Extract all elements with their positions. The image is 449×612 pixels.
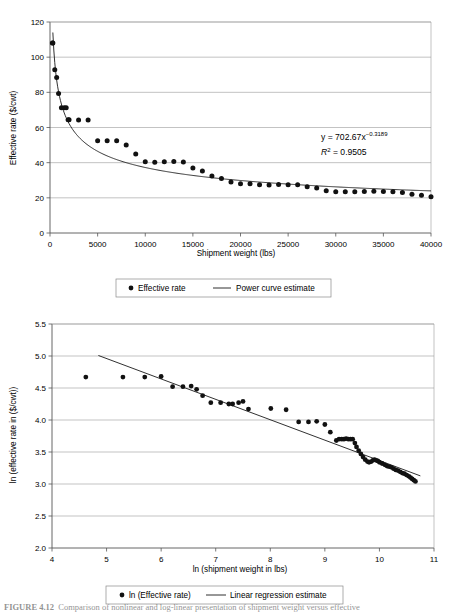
data-point: [86, 118, 91, 123]
data-point: [257, 182, 262, 187]
data-point: [390, 189, 395, 194]
bottom-x-tick: 5: [104, 555, 109, 564]
top-x-tick: 20000: [229, 240, 252, 249]
chart-log-log-effective-rate: 4567891011 2.02.53.03.54.04.55.05.5 ln (…: [0, 300, 449, 600]
bottom-x-tick: 4: [50, 555, 55, 564]
data-point: [230, 402, 235, 407]
top-y-tick: 120: [31, 18, 45, 27]
data-point: [381, 189, 386, 194]
top-x-tick: 15000: [182, 240, 205, 249]
top-scatter-points: [50, 41, 434, 200]
data-point: [268, 406, 273, 411]
top-r-squared: R2 = 0.9505: [321, 147, 367, 158]
top-annotation: y = 702.67x−0.3189 R2 = 0.9505: [321, 131, 388, 157]
data-point: [267, 183, 272, 188]
data-point: [200, 169, 205, 174]
data-point: [352, 189, 357, 194]
data-point: [105, 138, 110, 143]
data-point: [314, 185, 319, 190]
top-y-tick-labels: 020406080100120: [31, 18, 45, 238]
data-point: [200, 393, 205, 398]
data-point: [162, 159, 167, 164]
data-point: [142, 375, 147, 380]
caption-line: FIGURE 4.12 Comparison of nonlinear and …: [4, 602, 360, 612]
top-x-tick-labels: 0500010000150002000025000300003500040000: [48, 240, 443, 249]
data-point: [52, 67, 57, 72]
top-x-axis-title: Shipment weight (lbs): [197, 249, 276, 258]
figure-page: 0500010000150002000025000300003500040000…: [0, 0, 449, 612]
data-point: [171, 159, 176, 164]
data-point: [324, 188, 329, 193]
data-point: [248, 181, 253, 186]
top-legend-label-points: Effective rate: [138, 284, 186, 293]
data-point: [170, 384, 175, 389]
data-point: [305, 184, 310, 189]
top-legend-label-curve: Power curve estimate: [236, 284, 315, 293]
bottom-y-tick: 2.5: [35, 512, 47, 521]
data-point: [121, 375, 126, 380]
caption-body: Comparison of nonlinear and log-linear p…: [58, 602, 360, 612]
top-y-tick: 40: [35, 159, 44, 168]
bottom-x-tick: 9: [323, 555, 328, 564]
legend-dot-icon: [120, 593, 125, 598]
top-y-tick: 60: [35, 124, 44, 133]
bottom-y-tick: 3.0: [35, 480, 47, 489]
data-point: [54, 75, 59, 80]
data-point: [181, 384, 186, 389]
data-point: [343, 189, 348, 194]
bottom-y-tick: 5.5: [35, 320, 47, 329]
top-equation: y = 702.67x−0.3189: [321, 131, 388, 142]
data-point: [95, 138, 100, 143]
data-point: [246, 407, 251, 412]
data-point: [189, 384, 194, 389]
top-x-tick: 25000: [277, 240, 300, 249]
data-point: [306, 420, 311, 425]
top-gridlines: [50, 22, 431, 198]
data-point: [400, 190, 405, 195]
data-point: [419, 193, 424, 198]
bottom-scatter-points: [83, 374, 417, 484]
data-point: [409, 192, 414, 197]
data-point: [362, 189, 367, 194]
bottom-y-axis-title: ln (effective rate in ($/cwt)): [9, 387, 18, 484]
power-curve-path: [53, 32, 431, 190]
bottom-x-tick-labels: 4567891011: [50, 555, 439, 564]
data-point: [76, 117, 81, 122]
power-curve-estimate: [53, 32, 431, 190]
bottom-x-tick: 8: [268, 555, 273, 564]
data-point: [314, 419, 319, 424]
data-point: [413, 479, 418, 484]
bottom-y-tick: 3.5: [35, 448, 47, 457]
bottom-x-tick: 10: [375, 555, 384, 564]
bottom-y-tick: 5.0: [35, 352, 47, 361]
bottom-y-tick: 4.0: [35, 416, 47, 425]
top-y-tick: 80: [35, 88, 44, 97]
data-point: [124, 143, 129, 148]
bottom-x-tick: 7: [213, 555, 218, 564]
top-tick-marks: [47, 22, 432, 237]
bottom-x-tick: 11: [430, 555, 439, 564]
legend-dot-icon: [129, 286, 134, 291]
bottom-chart-canvas: 4567891011 2.02.53.03.54.04.55.05.5 ln (…: [0, 300, 449, 612]
data-point: [296, 420, 301, 425]
data-point: [194, 387, 199, 392]
data-point: [64, 105, 69, 110]
bottom-plot-frame: [52, 324, 434, 548]
bottom-y-tick-labels: 2.02.53.03.54.04.55.05.5: [35, 320, 47, 553]
regression-line-path: [98, 355, 420, 475]
data-point: [238, 181, 243, 186]
data-point: [241, 399, 246, 404]
data-point: [371, 189, 376, 194]
data-point: [67, 117, 72, 122]
data-point: [218, 400, 223, 405]
data-point: [209, 174, 214, 179]
data-point: [114, 138, 119, 143]
data-point: [276, 182, 281, 187]
top-x-tick: 10000: [134, 240, 157, 249]
bottom-y-tick: 2.0: [35, 544, 47, 553]
top-x-tick: 40000: [420, 240, 443, 249]
top-x-tick: 35000: [372, 240, 395, 249]
top-y-tick: 20: [35, 194, 44, 203]
data-point: [56, 91, 61, 96]
top-x-tick: 5000: [89, 240, 107, 249]
